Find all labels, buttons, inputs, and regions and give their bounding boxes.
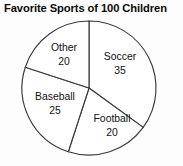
- slice-label-baseball: Baseball: [35, 91, 75, 102]
- pie-chart-svg: Soccer35Football20Baseball25Other20: [0, 0, 183, 166]
- slice-label-other: Other: [51, 42, 78, 53]
- slice-value-other: 20: [58, 56, 70, 67]
- slice-label-soccer: Soccer: [104, 51, 137, 62]
- pie-slices-group: [22, 21, 156, 155]
- slice-value-football: 20: [106, 127, 118, 138]
- slice-value-soccer: 35: [114, 65, 126, 76]
- slice-value-baseball: 25: [49, 105, 61, 116]
- pie-chart-figure: Favorite Sports of 100 Children Soccer35…: [0, 0, 183, 166]
- slice-label-football: Football: [94, 113, 131, 124]
